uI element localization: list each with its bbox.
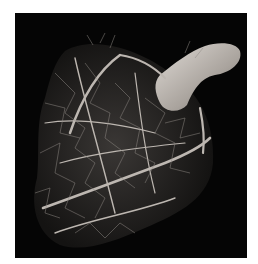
heart-vessel-illustration	[15, 13, 247, 258]
heart-vasculature-image	[15, 13, 247, 258]
aorta	[155, 43, 240, 110]
